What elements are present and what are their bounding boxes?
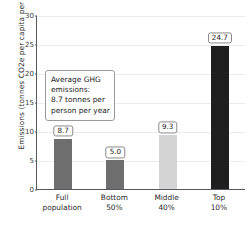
- y-tick-label: 20: [25, 70, 34, 78]
- y-tick-mark: [35, 190, 38, 191]
- bar-value-label: 8.7: [53, 125, 72, 137]
- bar-bottom-50-[interactable]: [106, 160, 124, 189]
- annotation-line: person per year: [51, 106, 109, 116]
- x-axis-category-label: Top10%: [211, 193, 227, 213]
- y-tick-label: 25: [25, 41, 34, 49]
- annotation-line: Average GHG: [51, 75, 109, 85]
- x-axis-category-line: 50%: [101, 203, 128, 213]
- average-ghg-note: Average GHGemissions:8.7 tonnes perperso…: [45, 70, 115, 121]
- x-axis-category-line: Bottom: [101, 193, 128, 203]
- bar-full-population[interactable]: [54, 139, 72, 189]
- x-axis-category-line: 10%: [211, 203, 227, 213]
- y-tick-label: 30: [25, 12, 34, 20]
- y-tick-label: 15: [25, 99, 34, 107]
- y-tick-mark: [35, 74, 38, 75]
- gridline: [37, 16, 245, 17]
- annotation-line: emissions:: [51, 85, 109, 95]
- x-axis-category-line: Full: [42, 193, 81, 203]
- y-tick-label: 5: [30, 157, 34, 165]
- x-axis-category-label: Bottom50%: [101, 193, 128, 213]
- y-tick-label: 0: [30, 186, 34, 194]
- y-tick-label: 10: [25, 128, 34, 136]
- bar-chart-figure: Emissions (tonnes CO2e per capita per ye…: [0, 0, 252, 231]
- x-axis-category-label: Middle40%: [154, 193, 178, 213]
- x-axis-category-label: Fullpopulation: [42, 193, 81, 213]
- y-tick-mark: [35, 132, 38, 133]
- bar-value-label: 24.7: [208, 32, 232, 44]
- x-axis-category-line: population: [42, 203, 81, 213]
- bar-middle-40-[interactable]: [159, 135, 177, 189]
- annotation-line: 8.7 tonnes per: [51, 95, 109, 105]
- bar-top-10-[interactable]: [211, 46, 229, 189]
- y-tick-mark: [35, 161, 38, 162]
- y-tick-mark: [35, 103, 38, 104]
- x-axis-category-line: Middle: [154, 193, 178, 203]
- y-tick-mark: [35, 16, 38, 17]
- bar-value-label: 9.3: [158, 121, 177, 133]
- bar-value-label: 5.0: [106, 146, 125, 158]
- x-axis-category-line: 40%: [154, 203, 178, 213]
- x-axis-category-line: Top: [211, 193, 227, 203]
- y-tick-mark: [35, 45, 38, 46]
